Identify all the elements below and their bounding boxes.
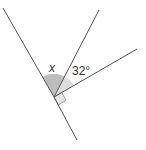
- line-upper-left: [3, 8, 54, 97]
- line-lower: [54, 97, 77, 140]
- angle-x-label: x: [48, 61, 56, 75]
- angle-diagram: x 32°: [0, 0, 146, 150]
- angle-32-label: 32°: [72, 64, 90, 78]
